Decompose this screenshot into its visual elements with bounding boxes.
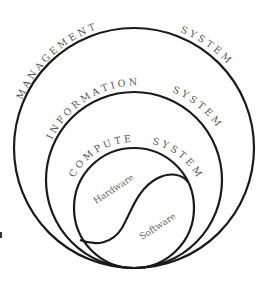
edge-mark (0, 232, 2, 238)
hardware-software-divider (80, 175, 188, 244)
information-label-second: S Y S T E M (171, 84, 224, 129)
computer-system-ring (74, 148, 194, 268)
information-label-first: I N F O R M A T I O N (44, 76, 138, 141)
management-label-first: M A N A G E M E N T (14, 21, 97, 101)
nested-systems-diagram: M A N A G E M E N T S Y S T E M I N F O … (0, 0, 272, 282)
software-label: Software (138, 211, 178, 242)
hardware-label: Hardware (92, 172, 136, 205)
computer-label-second: S Y S T E M (151, 135, 204, 178)
management-label-second: S Y S T E M (179, 24, 234, 66)
